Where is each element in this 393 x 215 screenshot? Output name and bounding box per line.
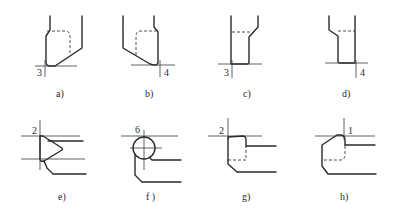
hidden-contour: [322, 146, 345, 160]
tool-nose-diagram: 3 a) 4 b) 3 c) 4 d) 2 e): [0, 0, 393, 215]
panel-caption: d): [342, 88, 350, 100]
tool-outline: [231, 16, 258, 64]
hidden-contour: [47, 31, 70, 55]
panel-caption: g): [242, 191, 250, 203]
hidden-contour: [136, 31, 156, 55]
shank-upper: [150, 158, 181, 160]
point-number: 6: [135, 124, 140, 135]
point-number: 1: [348, 125, 353, 136]
tool-outline: [322, 135, 376, 174]
panel-f: 6 f ): [121, 124, 181, 203]
hidden-contour: [228, 146, 246, 160]
panel-caption: b): [145, 88, 153, 100]
panel-caption: h): [340, 191, 348, 203]
panel-h: 1 h): [315, 118, 376, 203]
panel-caption: c): [243, 88, 251, 100]
tool-outline: [46, 16, 82, 66]
point-number: 4: [164, 67, 169, 78]
panel-g: 2 g): [208, 118, 276, 203]
panel-c: 3 c): [218, 16, 262, 100]
panel-caption: e): [58, 191, 66, 203]
panel-a: 3 a): [35, 16, 82, 100]
point-number: 4: [360, 67, 365, 78]
panel-caption: f ): [146, 191, 155, 203]
shank-lower: [44, 161, 86, 174]
panel-d: 4 d): [325, 16, 368, 100]
tool-outline: [228, 136, 246, 160]
point-number: 3: [37, 67, 42, 78]
point-number: 2: [219, 125, 224, 136]
tool-outline: [123, 16, 158, 65]
panel-b: 4 b): [123, 16, 175, 100]
tool-outline: [329, 16, 355, 63]
panel-caption: a): [56, 88, 64, 100]
tool-triangle: [40, 136, 63, 161]
panel-e: 2 e): [21, 120, 86, 203]
point-number: 2: [32, 125, 37, 136]
point-number: 3: [224, 67, 229, 78]
shank-lower: [228, 160, 276, 172]
